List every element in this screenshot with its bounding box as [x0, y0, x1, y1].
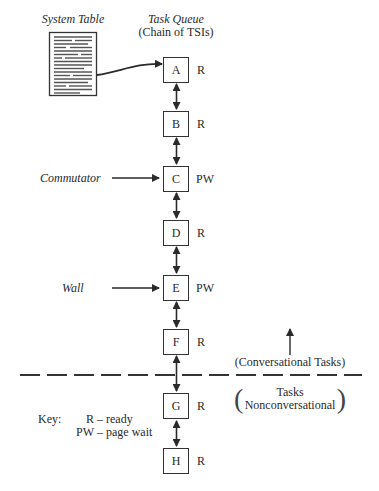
tsi-status: R: [197, 335, 205, 349]
nonconversational-tasks-label: ( Tasks Nonconversational ): [234, 384, 346, 414]
tsi-status: PW: [196, 172, 214, 186]
tsi-id: E: [172, 281, 179, 296]
conversational-tasks-label: (Conversational Tasks): [234, 356, 346, 369]
nonconversational-line: Nonconversational: [242, 399, 338, 412]
system-table-document-icon: [50, 33, 97, 96]
key-entry-page-wait: PW – page wait: [66, 425, 156, 439]
tsi-status: R: [197, 454, 205, 468]
key-code: PW: [66, 425, 94, 439]
tsi-box-e: E: [163, 275, 189, 301]
tsi-box-c: C: [163, 166, 189, 192]
tsi-status: R: [197, 399, 205, 413]
tsi-status: R: [197, 226, 205, 240]
key-meaning: page wait: [106, 425, 152, 439]
tsi-status: PW: [196, 281, 214, 295]
tsi-id: F: [173, 335, 180, 350]
key-dash: –: [97, 412, 106, 426]
key-entry-ready: R – ready: [76, 412, 136, 426]
key-dash: –: [97, 425, 106, 439]
tsi-id: D: [172, 226, 181, 241]
tsi-box-b: B: [163, 111, 189, 137]
right-paren: ): [337, 384, 346, 414]
tsi-id: B: [172, 117, 180, 132]
tsi-box-a: A: [163, 57, 189, 83]
commutator-label: Commutator: [40, 171, 101, 185]
tsi-box-g: G: [163, 393, 189, 419]
tsi-status: R: [197, 63, 205, 77]
tsi-box-f: F: [163, 329, 189, 355]
task-queue-subtitle: (Chain of TSIs): [131, 26, 221, 39]
key-title: Key:: [38, 412, 61, 426]
tsi-box-d: D: [163, 220, 189, 246]
tsi-id: C: [172, 172, 180, 187]
tsi-id: G: [172, 399, 181, 414]
tsi-id: H: [172, 454, 181, 469]
table-to-queue-arrow: [97, 64, 162, 75]
key-meaning: ready: [106, 412, 133, 426]
wall-label: Wall: [62, 281, 84, 295]
tsi-status: R: [197, 117, 205, 131]
system-table-label: System Table: [40, 13, 106, 26]
key-code: R: [76, 412, 94, 426]
tsi-box-h: H: [163, 448, 189, 474]
tsi-id: A: [172, 63, 181, 78]
